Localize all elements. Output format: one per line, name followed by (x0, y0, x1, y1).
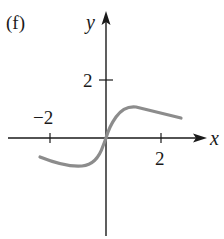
x-tick-label-neg2: −2 (33, 107, 53, 128)
x-axis-label: x (209, 127, 219, 149)
x-tick-label-pos2: 2 (155, 148, 165, 169)
function-graph: (f) y x 2 −2 2 (0, 0, 224, 239)
y-axis-label: y (84, 11, 95, 34)
panel-label: (f) (6, 12, 25, 34)
y-tick-label-2: 2 (83, 70, 93, 91)
